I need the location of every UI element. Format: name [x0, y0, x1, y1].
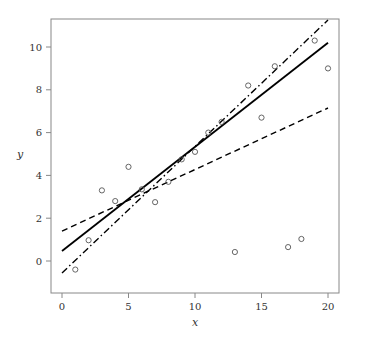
data-point: [299, 236, 304, 241]
plot-frame: [51, 19, 339, 293]
x-tick-label: 5: [125, 301, 131, 312]
y-tick-label: 0: [36, 256, 42, 267]
x-tick-label: 20: [322, 301, 335, 312]
data-point: [86, 238, 91, 243]
scatter-plot: 05101520 0246810 x y: [0, 0, 367, 340]
data-point: [312, 38, 317, 43]
data-point: [325, 66, 330, 71]
y-tick-label: 4: [36, 170, 42, 181]
y-tick-label: 2: [36, 213, 42, 224]
data-point: [232, 249, 237, 254]
y-tick-label: 8: [36, 84, 42, 95]
data-point: [166, 179, 171, 184]
data-point: [272, 64, 277, 69]
y-axis: 0246810: [29, 42, 51, 267]
data-point: [126, 164, 131, 169]
data-point: [192, 149, 197, 154]
data-point: [286, 244, 291, 249]
data-point: [259, 115, 264, 120]
fit-dashdot-line: [62, 20, 328, 273]
x-tick-label: 10: [189, 301, 202, 312]
data-point: [99, 188, 104, 193]
data-point: [153, 200, 158, 205]
x-axis: 05101520: [59, 293, 335, 312]
y-tick-label: 6: [36, 127, 42, 138]
data-point: [246, 83, 251, 88]
x-axis-label: x: [192, 316, 199, 329]
fit-dashed-line: [62, 108, 328, 231]
data-point: [73, 267, 78, 272]
x-tick-label: 0: [59, 301, 65, 312]
y-tick-label: 10: [29, 42, 42, 53]
fit-solid-line: [62, 43, 328, 251]
x-tick-label: 15: [255, 301, 268, 312]
data-points: [73, 38, 331, 272]
regression-lines: [62, 20, 328, 273]
data-point: [113, 198, 118, 203]
y-axis-label: y: [16, 148, 24, 161]
